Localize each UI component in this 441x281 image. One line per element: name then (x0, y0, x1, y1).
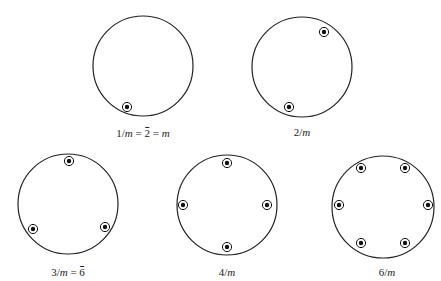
pole-marker-icon (262, 200, 271, 209)
label-text: m (227, 266, 235, 278)
pole-marker-icon (319, 27, 328, 36)
label-text: = (68, 266, 80, 278)
stereogram-2m (252, 17, 352, 117)
label-text: m (302, 126, 310, 138)
label-rotoinversion: 2 (145, 127, 151, 139)
label-text: m (125, 127, 133, 139)
label-2m: 2/m (294, 126, 311, 138)
stereogram-4m (177, 155, 277, 255)
label-text: m (60, 266, 68, 278)
label-4m: 4/m (219, 266, 236, 278)
label-text: 4/ (219, 266, 228, 278)
pole-marker-icon (423, 200, 432, 209)
stereogram-canvas (0, 0, 441, 281)
diagram-stage: 1/m = 2 = m 2/m 3/m = 6 4/m 6/m (0, 0, 441, 281)
primitive-circle (252, 17, 352, 117)
pole-marker-icon (400, 163, 409, 172)
pole-marker-icon (222, 242, 231, 251)
pole-marker-icon (356, 238, 365, 247)
pole-marker-icon (284, 102, 293, 111)
stereogram-1m (93, 16, 193, 116)
label-text: m (387, 266, 395, 278)
pole-marker-icon (334, 200, 343, 209)
pole-marker-icon (64, 156, 73, 165)
label-3m: 3/m = 6 (51, 266, 85, 278)
label-rotoinversion: 6 (79, 266, 85, 278)
pole-marker-icon (356, 163, 365, 172)
pole-marker-icon (400, 238, 409, 247)
label-text: 3/ (51, 266, 60, 278)
pole-marker-icon (178, 200, 187, 209)
label-text: = (133, 127, 145, 139)
pole-marker-icon (100, 222, 109, 231)
stereogram-3m (18, 154, 118, 254)
label-text: m (162, 127, 170, 139)
pole-marker-icon (122, 102, 131, 111)
stereogram-6m (332, 156, 434, 258)
label-text: 2/ (294, 126, 303, 138)
label-text: 6/ (379, 266, 388, 278)
label-text: 1/ (116, 127, 125, 139)
label-1m: 1/m = 2 = m (116, 127, 169, 139)
primitive-circle (93, 16, 193, 116)
primitive-circle (332, 156, 434, 258)
pole-marker-icon (222, 158, 231, 167)
label-text: = (150, 127, 162, 139)
pole-marker-icon (28, 224, 37, 233)
primitive-circle (18, 154, 118, 254)
label-6m: 6/m (379, 266, 396, 278)
